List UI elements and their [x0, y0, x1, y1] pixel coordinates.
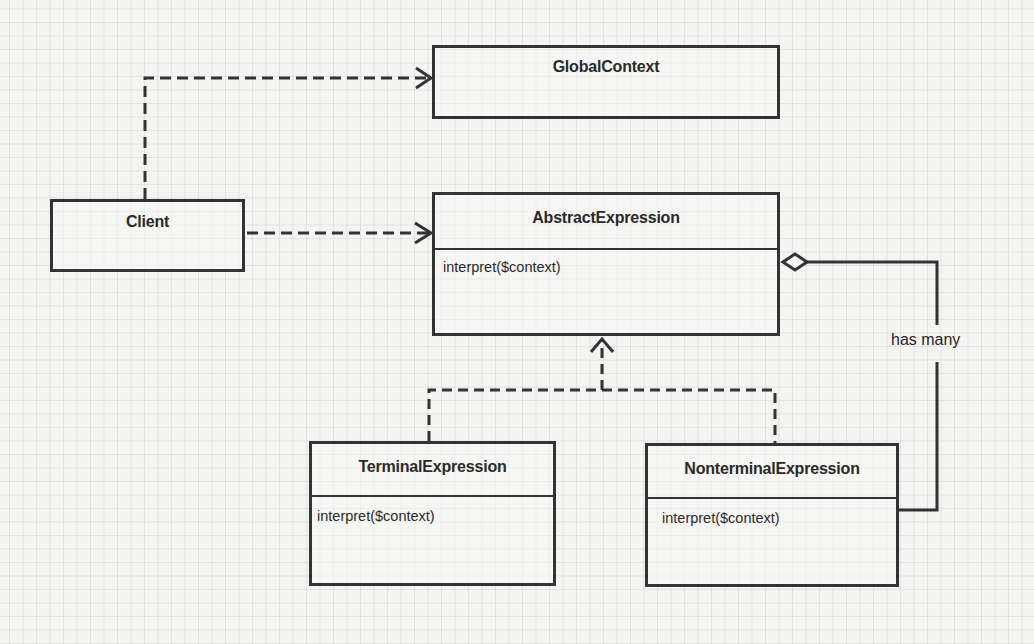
class-name: TerminalExpression: [312, 444, 553, 495]
class-abstract-expression[interactable]: AbstractExpression interpret($context): [432, 192, 780, 336]
diagram-canvas: GlobalContext Client AbstractExpression …: [0, 0, 1034, 644]
dependency-client-globalcontext: [145, 68, 431, 199]
method-interpret: interpret($context): [312, 497, 553, 524]
method-interpret: interpret($context): [648, 499, 896, 526]
class-client[interactable]: Client: [50, 199, 245, 272]
class-name: NonterminalExpression: [648, 446, 896, 497]
class-global-context[interactable]: GlobalContext: [432, 45, 780, 119]
class-nonterminal-expression[interactable]: NonterminalExpression interpret($context…: [645, 443, 899, 587]
dependency-client-abstractexpression: [247, 223, 431, 243]
class-terminal-expression[interactable]: TerminalExpression interpret($context): [309, 441, 556, 586]
class-name: AbstractExpression: [435, 195, 777, 248]
class-name: Client: [53, 202, 242, 231]
method-interpret: interpret($context): [435, 250, 777, 275]
realization-to-abstractexpression: [429, 339, 775, 443]
class-name: GlobalContext: [435, 48, 777, 76]
aggregation-diamond-icon: [783, 254, 807, 270]
aggregation-label: has many: [891, 331, 960, 349]
